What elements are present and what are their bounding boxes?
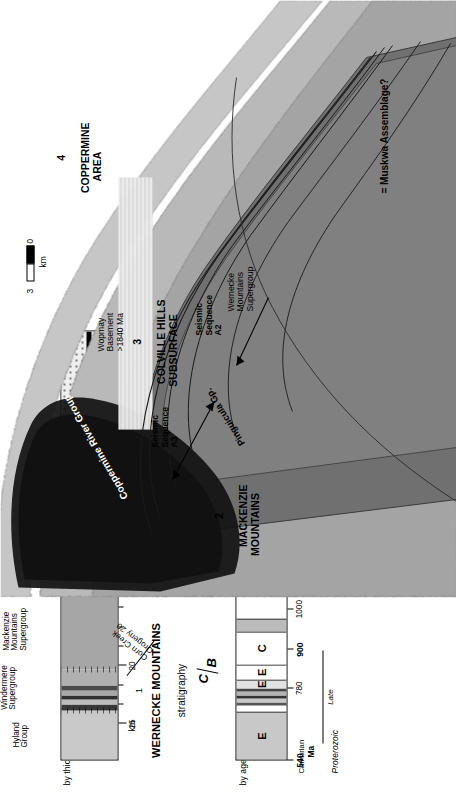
age-cell-windermere-a — [236, 702, 286, 706]
section-2-number: 2 — [212, 512, 224, 518]
era-label: Late — [325, 689, 334, 705]
section-4-name: COPPERMINE AREA — [78, 122, 102, 193]
age-cell-letter: E — [255, 732, 267, 739]
era-bar — [322, 650, 323, 742]
age-tick-label: 1000 — [294, 600, 303, 618]
section-3-number: 3 — [130, 338, 142, 344]
thickness-tick — [118, 703, 123, 704]
unconformity-mark — [61, 666, 117, 672]
muskwa-assemblage-label: = Muskwa Assemblage? — [378, 78, 389, 193]
sequence-b-upper: B — [204, 658, 218, 668]
cross-section-panel: 2 MACKENZIE MOUNTAINS 3 COLVILLE HILLS S… — [0, 0, 456, 597]
age-cell-windermere-b — [236, 698, 286, 702]
seismic-sequence-a2-label: Seismic Sequence A2 — [194, 294, 223, 335]
age-tick-label: 900 — [294, 642, 304, 656]
thickness-cell-windermere-band-2 — [61, 699, 117, 704]
cambrian-label: Cambrian — [297, 739, 305, 773]
panel1-number: 1 — [133, 595, 143, 785]
wopmay-basement-label: Wopmay Basement >1840 Ma — [96, 312, 124, 351]
age-cell-windermere-e — [236, 688, 286, 691]
unconformity-mark — [61, 707, 117, 713]
section-3-name: COLVILLE HILLS SUBSURFACE — [154, 299, 178, 386]
group-label-windermere-supergroup: Windermere Supergroup — [0, 665, 17, 710]
thickness-cell-windermere-band-3 — [61, 695, 117, 699]
age-cell-hyland: E — [236, 711, 286, 759]
scale-bar-unit: km — [38, 256, 47, 267]
scale-bar-top-label: 3 — [25, 288, 34, 293]
age-cell-gap-780: E — [236, 664, 286, 679]
thickness-tick — [118, 722, 126, 723]
scale-bar-bottom-label: 0 — [25, 238, 34, 243]
thickness-unit-km: km — [128, 720, 137, 731]
age-cell-windermere-f: E — [236, 679, 286, 688]
figure-stage: 1 WERNECKE MOUNTAINS stratigraphy by thi… — [0, 0, 456, 793]
age-tick-label: 780 — [294, 681, 303, 695]
section-2-name: MACKENZIE MOUNTAINS — [236, 484, 260, 555]
thickness-cell-windermere-band-4 — [61, 690, 117, 695]
group-label-hyland-group: Hyland Group — [12, 722, 29, 748]
age-ma-unit: Ma — [306, 745, 315, 757]
wernecke-mountains-supergroup-label: Wernecke Mountains Supergroup — [226, 266, 254, 311]
section-4-title: 4 COPPERMINE AREA — [42, 91, 114, 241]
age-tick — [287, 608, 293, 609]
age-tick — [287, 687, 293, 688]
age-tick — [287, 648, 293, 649]
section-2-title: 2 MACKENZIE MOUNTAINS — [200, 449, 272, 597]
seismic-sequence-a3-label: Seismic Sequence A3 — [150, 406, 179, 447]
sequence-bracket-upper — [196, 668, 218, 674]
proterozoic-label: Proterozoic — [330, 730, 339, 773]
age-cell-letter: E — [255, 680, 267, 687]
age-cell-letter: E — [255, 668, 267, 675]
panel1-subtitle: stratigraphy — [176, 595, 187, 785]
age-tick — [287, 759, 293, 760]
thickness-tick — [118, 606, 123, 607]
thickness-tick — [118, 664, 126, 665]
thickness-cell-windermere-band-5 — [61, 685, 117, 689]
age-column-label: by age — [238, 759, 247, 785]
sequence-c-upper: C — [196, 674, 210, 684]
panel1-title: WERNECKE MOUNTAINS — [150, 595, 162, 785]
thickness-cell-hyland-group — [61, 710, 117, 759]
age-cell-pinguicula-gap: C — [236, 631, 286, 664]
age-cell-windermere-d — [236, 691, 286, 694]
section-4-number: 4 — [54, 154, 66, 160]
group-label-mackenzie-mountains-supergroup: Mackenzie Mountains Supergroup — [2, 608, 27, 651]
age-cell-pinguicula-a — [236, 618, 286, 631]
section-3-title: 3 COLVILLE HILLS SUBSURFACE — [118, 275, 190, 425]
age-cell-letter: C — [255, 644, 267, 652]
thickness-tick — [118, 684, 123, 685]
age-cell-windermere-upper — [236, 706, 286, 712]
panel-wernecke-stratigraphy: 1 WERNECKE MOUNTAINS stratigraphy by thi… — [0, 593, 456, 793]
